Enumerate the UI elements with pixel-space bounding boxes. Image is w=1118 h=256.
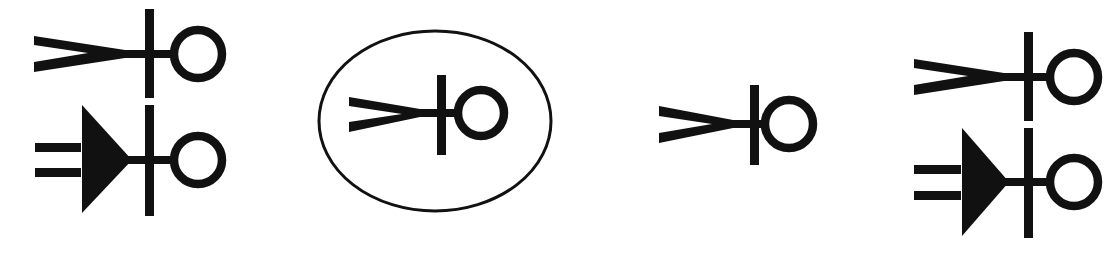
contact-circle-icon [174, 30, 222, 78]
receptacle-fork-symbol [659, 85, 813, 165]
symbol-group-2 [319, 31, 551, 211]
plug-triangle-symbol [914, 128, 1098, 238]
enclosure-ellipse [319, 31, 551, 211]
receptacle-fork-symbol [914, 32, 1098, 121]
symbol-group-4 [914, 32, 1098, 238]
fork-icon [349, 97, 437, 132]
contact-bar [437, 75, 446, 155]
double-line-top [35, 143, 81, 152]
fork-icon [914, 59, 1024, 95]
triangle-icon [82, 105, 132, 213]
contact-circle-icon [1050, 53, 1098, 101]
plug-triangle-symbol [35, 105, 222, 216]
double-line-bottom [914, 191, 961, 200]
contact-bar [145, 9, 154, 98]
contact-circle-icon [1050, 158, 1098, 206]
triangle-icon [962, 128, 1009, 236]
double-line-bottom [35, 168, 81, 177]
contact-circle-icon [174, 136, 222, 184]
contact-bar [750, 85, 759, 165]
double-line-top [914, 165, 961, 174]
contact-bar [145, 105, 154, 216]
fork-icon [34, 36, 145, 72]
symbol-group-1 [34, 9, 222, 216]
contact-bar [1024, 128, 1033, 238]
contact-circle-icon [458, 90, 504, 136]
receptacle-fork-symbol [349, 75, 504, 155]
fork-icon [659, 106, 750, 143]
contact-bar [1024, 32, 1033, 121]
contact-circle-icon [765, 100, 813, 148]
symbol-group-3 [659, 85, 813, 165]
connector-symbols-diagram [0, 0, 1118, 256]
receptacle-fork-symbol [34, 9, 222, 98]
